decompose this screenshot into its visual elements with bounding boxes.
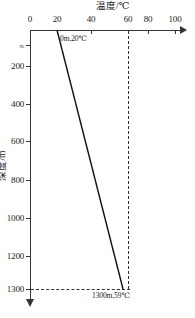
- top-point-label: 0m,20℃: [60, 34, 87, 43]
- geothermal-gradient-line: [0, 0, 195, 318]
- temperature-depth-chart: 温度/℃ 深度/m 0 20 40 60 80 100 95 200 400 6…: [0, 0, 195, 318]
- bottom-point-label: 1300m,59℃: [92, 291, 130, 300]
